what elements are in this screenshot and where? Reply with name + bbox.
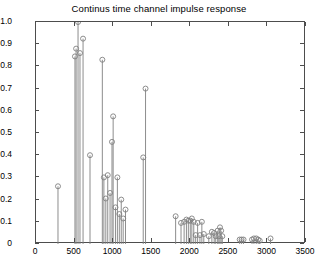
xtick-label: 3000: [257, 246, 276, 256]
ytick-mark: [300, 154, 304, 155]
ytick-label: 0.9: [0, 38, 12, 48]
xtick-mark: [228, 238, 229, 242]
xtick-mark: [305, 22, 306, 26]
ytick-label: 0.3: [0, 171, 12, 181]
ytick-mark: [35, 176, 39, 177]
ytick-label: 0.6: [0, 105, 12, 115]
xtick-label: 2500: [218, 246, 237, 256]
ytick-mark: [35, 132, 39, 133]
ytick-mark: [300, 43, 304, 44]
ytick-mark: [300, 110, 304, 111]
xtick-mark: [35, 22, 36, 26]
ytick-label: 0.1: [0, 216, 12, 226]
xtick-mark: [35, 238, 36, 242]
xtick-mark: [228, 22, 229, 26]
ytick-label: 0.5: [0, 127, 12, 137]
xtick-mark: [305, 238, 306, 242]
plot-area: [35, 21, 305, 243]
xtick-mark: [189, 22, 190, 26]
ytick-mark: [300, 21, 304, 22]
ytick-mark: [300, 243, 304, 244]
ytick-mark: [35, 154, 39, 155]
ytick-label: 0.8: [0, 60, 12, 70]
ytick-mark: [300, 88, 304, 89]
xtick-mark: [74, 238, 75, 242]
xtick-mark: [74, 22, 75, 26]
xtick-mark: [112, 238, 113, 242]
ytick-label: 1.0: [0, 16, 12, 26]
ytick-mark: [35, 243, 39, 244]
ytick-mark: [300, 65, 304, 66]
xtick-label: 3500: [296, 246, 315, 256]
chart-figure: Continus time channel impulse response 0…: [0, 0, 318, 268]
ytick-mark: [300, 132, 304, 133]
xtick-label: 1500: [141, 246, 160, 256]
ytick-mark: [35, 199, 39, 200]
xtick-mark: [189, 238, 190, 242]
xtick-mark: [266, 22, 267, 26]
xtick-mark: [151, 22, 152, 26]
xtick-mark: [151, 238, 152, 242]
ytick-mark: [35, 110, 39, 111]
xtick-label: 0: [33, 246, 38, 256]
ytick-mark: [35, 65, 39, 66]
ytick-mark: [300, 199, 304, 200]
ytick-label: 0.4: [0, 149, 12, 159]
stem-series: [36, 22, 306, 244]
xtick-mark: [112, 22, 113, 26]
ytick-mark: [35, 221, 39, 222]
ytick-mark: [35, 88, 39, 89]
xtick-mark: [266, 238, 267, 242]
xtick-label: 500: [66, 246, 80, 256]
xtick-label: 1000: [103, 246, 122, 256]
ytick-mark: [35, 43, 39, 44]
ytick-label: 0: [0, 238, 12, 248]
ytick-mark: [300, 176, 304, 177]
ytick-mark: [300, 221, 304, 222]
ytick-label: 0.7: [0, 83, 12, 93]
ytick-label: 0.2: [0, 194, 12, 204]
chart-title: Continus time channel impulse response: [0, 3, 318, 14]
xtick-label: 2000: [180, 246, 199, 256]
